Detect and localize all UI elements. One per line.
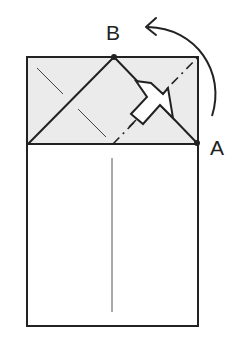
point-b-dot xyxy=(111,54,117,60)
point-a-dot xyxy=(194,140,200,146)
label-a: A xyxy=(210,137,224,158)
origami-diagram xyxy=(0,0,238,344)
shaded-flap xyxy=(27,57,198,144)
label-b: B xyxy=(106,22,120,43)
